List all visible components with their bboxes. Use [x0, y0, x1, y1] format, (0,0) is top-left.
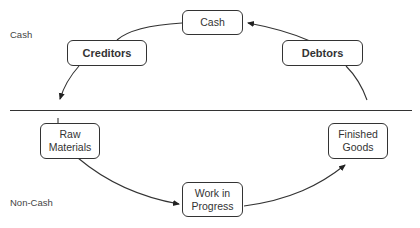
node-raw-materials: Raw Materials — [40, 123, 100, 159]
node-debtors: Debtors — [282, 40, 363, 66]
arrow-cash-to-creditors — [117, 23, 182, 40]
node-cash: Cash — [182, 10, 243, 35]
working-capital-cycle-diagram: Cash Non-Cash Cash Creditors Debtors Raw… — [0, 0, 420, 228]
node-raw-materials-line1: Raw — [59, 128, 80, 141]
arrow-debtors-to-cash — [248, 23, 310, 41]
node-finished-goods-line2: Goods — [343, 141, 374, 154]
region-label-cash: Cash — [10, 29, 32, 40]
node-wip-line2: Progress — [191, 200, 233, 213]
node-creditors-label: Creditors — [83, 47, 132, 60]
node-raw-materials-line2: Materials — [49, 141, 92, 154]
arrow-raw-materials-to-wip — [78, 158, 179, 204]
node-cash-label: Cash — [200, 16, 225, 29]
node-finished-goods: Finished Goods — [328, 123, 388, 159]
node-creditors: Creditors — [67, 40, 147, 66]
cash-noncash-divider — [10, 110, 412, 111]
node-finished-goods-line1: Finished — [338, 128, 378, 141]
arrow-finished-goods-to-debtors — [346, 66, 367, 100]
node-debtors-label: Debtors — [302, 47, 344, 60]
region-label-non-cash: Non-Cash — [10, 197, 53, 208]
node-work-in-progress: Work in Progress — [182, 182, 243, 217]
arrow-creditors-to-raw-materials — [60, 66, 79, 99]
arrow-wip-to-finished-goods — [244, 165, 345, 206]
node-wip-line1: Work in — [195, 187, 230, 200]
